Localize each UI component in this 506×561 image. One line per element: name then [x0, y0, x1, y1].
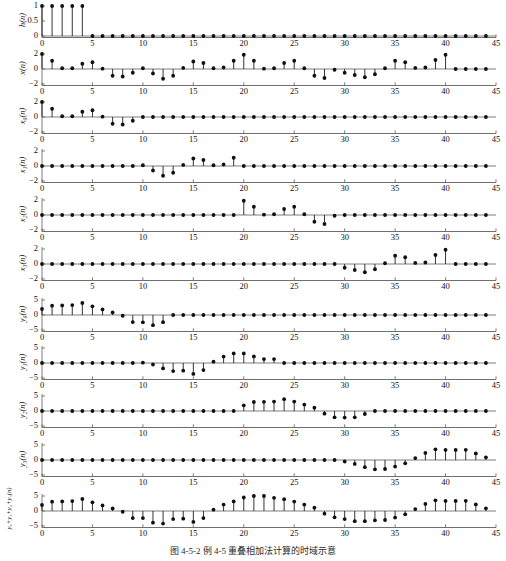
x-tick-label: 20	[232, 332, 256, 342]
stem-marker	[262, 262, 266, 266]
stem-marker	[131, 320, 135, 324]
stem-marker	[70, 499, 74, 503]
stem-marker	[393, 516, 397, 520]
x-tick-label: 30	[333, 281, 357, 291]
stem-marker	[353, 213, 357, 217]
y-axis-label-y0: y₀(n)	[17, 292, 27, 336]
stem-marker	[161, 367, 165, 371]
stem-marker	[131, 164, 135, 168]
x-tick-label: 35	[383, 281, 407, 291]
stem-marker	[484, 115, 488, 119]
stem-marker	[171, 213, 175, 217]
stem-marker	[292, 262, 296, 266]
stem-marker	[393, 115, 397, 119]
stem-marker	[111, 311, 115, 315]
stem-marker	[151, 115, 155, 119]
stem-marker	[131, 71, 135, 75]
subplot-x2: −202051015202530354045x₂(n)	[0, 196, 506, 240]
stem-marker	[70, 66, 74, 70]
stem-marker	[313, 313, 317, 317]
stem-marker	[121, 262, 125, 266]
x-tick-label: 40	[434, 332, 458, 342]
x-tick-label: 45	[484, 380, 506, 390]
stem-marker	[91, 458, 95, 462]
stem-marker	[181, 313, 185, 317]
stem-marker	[60, 458, 64, 462]
stem-marker	[101, 458, 105, 462]
stem-marker	[40, 52, 44, 56]
stem-marker	[343, 361, 347, 365]
stem-marker	[464, 164, 468, 168]
stem-marker	[423, 164, 427, 168]
stem-marker	[353, 115, 357, 119]
stem-marker	[40, 213, 44, 217]
stem-marker	[333, 68, 337, 72]
stem-marker	[171, 74, 175, 78]
stem-marker	[60, 213, 64, 217]
x-tick-label: 10	[131, 183, 155, 193]
stem-marker	[111, 409, 115, 413]
stem-marker	[413, 34, 417, 38]
x-tick-label: 15	[181, 38, 205, 48]
stem-marker	[161, 77, 165, 81]
stem-marker	[252, 262, 256, 266]
stem-marker	[403, 60, 407, 64]
stem-marker	[202, 213, 206, 217]
stem-marker	[252, 458, 256, 462]
stem-marker	[141, 262, 145, 266]
x-tick-label: 15	[181, 183, 205, 193]
x-tick-label: 40	[434, 281, 458, 291]
stem-marker	[373, 409, 377, 413]
stem-marker	[40, 307, 44, 311]
stem-marker	[444, 53, 448, 57]
x-tick-label: 5	[80, 38, 104, 48]
x-tick-label: 15	[181, 332, 205, 342]
stem-marker	[101, 361, 105, 365]
stem-marker	[313, 361, 317, 365]
stem-marker	[60, 500, 64, 504]
stem-marker	[161, 409, 165, 413]
stem-marker	[151, 213, 155, 217]
stem-marker	[484, 409, 488, 413]
stem-marker	[212, 115, 216, 119]
x-tick-label: 10	[131, 428, 155, 438]
y-axis-label-y2: y₂(n)	[17, 388, 27, 432]
stem-marker	[272, 496, 276, 500]
stem-marker	[333, 115, 337, 119]
stem-marker	[272, 357, 276, 361]
stem-marker	[313, 115, 317, 119]
stem-marker	[91, 262, 95, 266]
stem-marker	[333, 214, 337, 218]
x-tick-label: 35	[383, 183, 407, 193]
stem-marker	[434, 164, 438, 168]
x-tick-label: 0	[30, 183, 54, 193]
stem-marker	[302, 115, 306, 119]
stem-marker	[464, 213, 468, 217]
stem-marker	[141, 516, 145, 520]
stem-marker	[363, 34, 367, 38]
stem-marker	[373, 313, 377, 317]
stem-marker	[91, 409, 95, 413]
stem-marker	[202, 262, 206, 266]
stem-marker	[232, 409, 236, 413]
stem-marker	[413, 507, 417, 511]
stem-marker	[343, 213, 347, 217]
stem-marker	[313, 262, 317, 266]
x-tick-label: 0	[30, 134, 54, 144]
stem-marker	[70, 458, 74, 462]
stem-marker	[454, 164, 458, 168]
x-tick-label: 20	[232, 428, 256, 438]
stem-marker	[363, 115, 367, 119]
stem-marker	[363, 519, 367, 523]
stem-marker	[272, 262, 276, 266]
stem-marker	[111, 361, 115, 365]
stem-marker	[252, 59, 256, 63]
stem-marker	[444, 409, 448, 413]
stem-marker	[80, 4, 84, 8]
x-tick-label: 5	[80, 86, 104, 96]
x-tick-label: 25	[282, 428, 306, 438]
stem-marker	[121, 510, 125, 514]
stem-marker	[40, 409, 44, 413]
stem-marker	[40, 164, 44, 168]
stem-marker	[262, 115, 266, 119]
